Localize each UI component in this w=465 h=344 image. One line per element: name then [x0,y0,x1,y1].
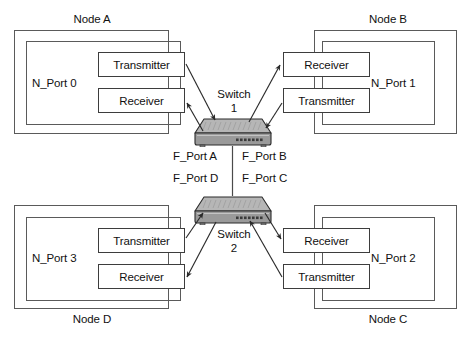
link-switch1-to-node-a-rx [187,103,203,131]
link-node-b-tx-to-switch1 [266,103,282,128]
link-node-d-tx-to-switch2 [186,213,203,238]
diagram-canvas: Node A N_Port 0 Transmitter Receiver Nod… [0,0,465,344]
link-arrows-layer [0,0,465,344]
link-node-a-tx-to-switch1 [186,64,215,120]
link-switch2-to-node-c-rx [265,213,281,239]
link-node-c-tx-to-switch2 [250,221,282,277]
